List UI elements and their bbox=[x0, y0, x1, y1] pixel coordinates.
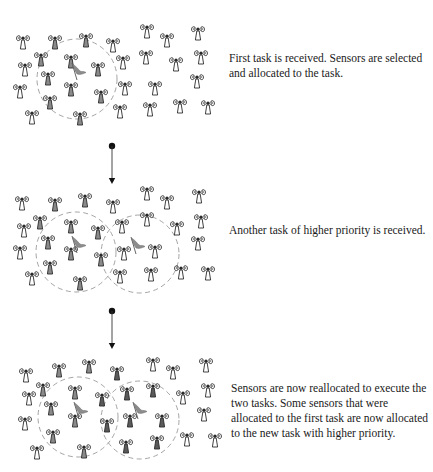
sensor-tower-icon bbox=[174, 100, 187, 113]
sensor-tower-icon bbox=[20, 369, 33, 382]
sensor-tower-icon bbox=[119, 82, 132, 95]
sensor-tower-icon bbox=[107, 39, 120, 52]
panel-1-network bbox=[14, 25, 215, 125]
sensor-tower-icon bbox=[195, 215, 208, 228]
sensor-tower-icon bbox=[74, 277, 87, 290]
sensor-tower-icon bbox=[23, 392, 36, 405]
sensor-tower-icon bbox=[95, 253, 108, 266]
sensor-tower-icon bbox=[181, 433, 194, 446]
panel-2-network bbox=[14, 187, 215, 293]
sensor-tower-icon bbox=[149, 82, 162, 95]
sensor-tower-icon bbox=[45, 402, 58, 415]
sensor-tower-icon bbox=[141, 187, 154, 200]
task-region-circle bbox=[101, 215, 179, 293]
sensor-tower-icon bbox=[42, 236, 55, 249]
sensor-tower-icon bbox=[144, 103, 157, 116]
sensor-tower-icon bbox=[47, 430, 60, 443]
sensor-tower-icon bbox=[202, 384, 215, 397]
sensor-tower-icon bbox=[19, 417, 32, 430]
sensor-tower-icon bbox=[156, 414, 169, 427]
panel-3-network bbox=[19, 358, 222, 459]
task-flag-icon bbox=[72, 63, 86, 80]
sensor-tower-icon bbox=[209, 434, 222, 447]
sensor-tower-icon bbox=[124, 414, 137, 427]
sensor-tower-icon bbox=[202, 101, 215, 114]
sensor-tower-icon bbox=[49, 198, 62, 211]
step-arrow-1 bbox=[109, 143, 115, 184]
sensor-tower-icon bbox=[14, 85, 27, 98]
sensor-tower-icon bbox=[92, 63, 105, 76]
sensor-tower-icon bbox=[200, 359, 213, 372]
sensor-tower-icon bbox=[121, 387, 134, 400]
sensor-tower-icon bbox=[69, 414, 82, 427]
sensor-tower-icon bbox=[198, 408, 211, 421]
sensor-tower-icon bbox=[141, 25, 154, 38]
sensor-tower-icon bbox=[175, 266, 188, 279]
sensor-tower-icon bbox=[18, 224, 31, 237]
step-arrow-2 bbox=[109, 308, 115, 349]
sensor-tower-icon bbox=[177, 391, 190, 404]
sensor-tower-icon bbox=[49, 36, 62, 49]
sensor-tower-icon bbox=[170, 58, 183, 71]
sensor-tower-icon bbox=[167, 366, 180, 379]
sensor-tower-icon bbox=[69, 386, 82, 399]
task-flag-icon bbox=[131, 237, 145, 254]
sensor-tower-icon bbox=[80, 34, 93, 47]
sensor-tower-icon bbox=[161, 34, 174, 47]
sensor-tower-icon bbox=[161, 196, 174, 209]
sensor-tower-icon bbox=[151, 436, 164, 449]
sensor-tower-icon bbox=[31, 446, 44, 459]
sensor-tower-icon bbox=[53, 364, 66, 377]
sensor-tower-icon bbox=[26, 272, 39, 285]
sensor-tower-icon bbox=[202, 267, 215, 280]
sensor-tower-icon bbox=[19, 63, 32, 76]
sensor-tower-icon bbox=[147, 358, 160, 371]
sensor-tower-icon bbox=[195, 51, 208, 64]
sensor-tower-icon bbox=[26, 111, 39, 124]
panel-1-caption: First task is received. Sensors are sele… bbox=[229, 51, 429, 81]
sensor-tower-icon bbox=[95, 90, 108, 103]
sensor-tower-icon bbox=[114, 270, 127, 283]
panel-2-caption: Another task of higher priority is recei… bbox=[229, 223, 429, 238]
sensor-tower-icon bbox=[17, 36, 30, 49]
sensor-tower-icon bbox=[37, 383, 50, 396]
sensor-tower-icon bbox=[114, 105, 127, 118]
sensor-tower-icon bbox=[192, 237, 205, 250]
sensor-tower-icon bbox=[16, 197, 29, 210]
sensor-tower-icon bbox=[65, 83, 78, 96]
panel-3-caption: Sensors are now reallocated to execute t… bbox=[231, 381, 431, 441]
sensor-tower-icon bbox=[140, 51, 153, 64]
sensor-tower-icon bbox=[35, 53, 48, 66]
sensor-tower-icon bbox=[193, 190, 206, 203]
sensor-tower-icon bbox=[14, 246, 27, 259]
sensor-tower-icon bbox=[117, 56, 130, 69]
sensor-tower-icon bbox=[44, 261, 57, 274]
sensor-tower-icon bbox=[147, 384, 160, 397]
sensor-tower-icon bbox=[116, 220, 129, 233]
sensor-tower-icon bbox=[145, 268, 158, 281]
sensor-tower-icon bbox=[79, 194, 92, 207]
sensor-tower-icon bbox=[34, 216, 47, 229]
sensor-tower-icon bbox=[42, 72, 55, 85]
sensor-tower-icon bbox=[192, 27, 205, 40]
sensor-tower-icon bbox=[65, 220, 78, 233]
sensor-tower-icon bbox=[111, 367, 124, 380]
sensor-tower-icon bbox=[191, 75, 204, 88]
task-flag-icon bbox=[133, 402, 147, 419]
sensor-tower-icon bbox=[44, 96, 57, 109]
sensor-tower-icon bbox=[120, 440, 133, 453]
sensor-tower-icon bbox=[107, 200, 120, 213]
sensor-tower-icon bbox=[92, 226, 105, 239]
sensor-tower-icon bbox=[96, 393, 109, 406]
sensor-tower-icon bbox=[83, 360, 96, 373]
sensor-tower-icon bbox=[141, 213, 154, 226]
sensor-tower-icon bbox=[149, 245, 162, 258]
sensor-tower-icon bbox=[118, 247, 131, 260]
